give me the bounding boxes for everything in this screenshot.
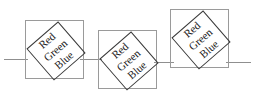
diagram-canvas: Red Green Blue Red Green Blue Red Green … xyxy=(0,0,255,96)
figure-1-bounding-square: Red Green Blue xyxy=(25,20,84,79)
figure-3-rotated-square: Red Green Blue xyxy=(171,10,230,69)
figure-3-labels: Red Green Blue xyxy=(172,11,228,67)
figure-2-label-red: Red xyxy=(109,40,131,61)
figure-2-bounding-square: Red Green Blue xyxy=(98,30,157,89)
figure-3-label-red: Red xyxy=(181,19,203,40)
figure-2-rotated-square: Red Green Blue xyxy=(99,31,158,90)
figure-2-label-blue: Blue xyxy=(125,59,149,82)
figure-2-label-green: Green xyxy=(114,47,143,74)
figure-3-label-green: Green xyxy=(186,26,215,53)
figure-1-label-blue: Blue xyxy=(52,49,76,72)
figure-1-label-red: Red xyxy=(36,30,58,51)
figure-1-label-green: Green xyxy=(41,37,70,64)
figure-3-label-blue: Blue xyxy=(197,38,221,61)
figure-1-labels: Red Green Blue xyxy=(27,22,83,78)
figure-1-rotated-square: Red Green Blue xyxy=(26,21,85,80)
figure-2-labels: Red Green Blue xyxy=(100,32,156,88)
figure-3-bounding-square: Red Green Blue xyxy=(170,9,229,68)
connector-right xyxy=(226,62,251,63)
